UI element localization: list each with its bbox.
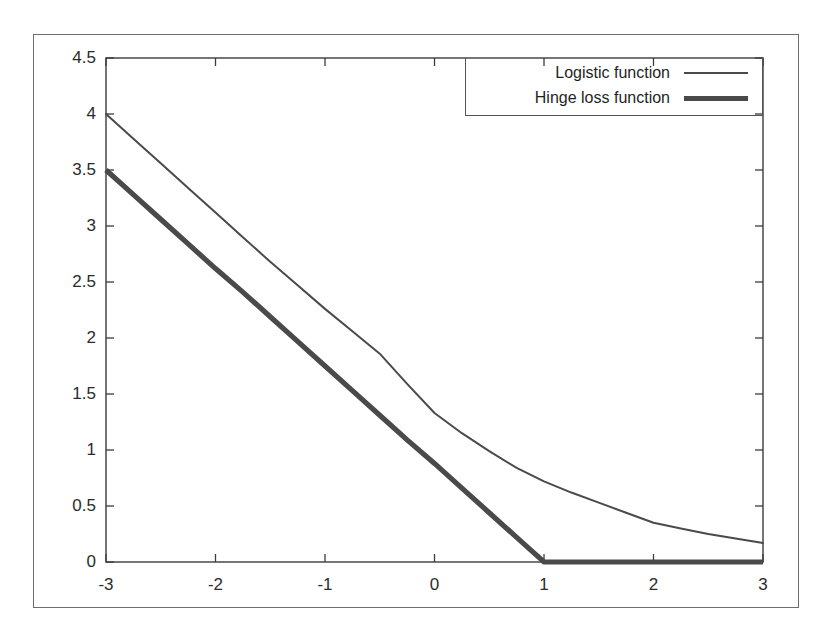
legend-label-logistic-function: Logistic function <box>555 64 684 82</box>
y-tick-label-3.5: 3.5 <box>44 160 96 180</box>
x-tick-label--2: -2 <box>208 575 223 595</box>
y-tick-label-4.5: 4.5 <box>44 48 96 68</box>
series-line-logistic-function <box>106 114 763 543</box>
y-tick-label-3: 3 <box>44 216 96 236</box>
x-tick-label--3: -3 <box>98 575 113 595</box>
x-tick-label--1: -1 <box>317 575 332 595</box>
plot-canvas <box>34 35 798 607</box>
line-thick-icon <box>684 96 748 101</box>
y-tick-label-1.5: 1.5 <box>44 384 96 404</box>
legend-entry-hinge-loss-function: Hinge loss function <box>466 87 748 109</box>
x-tick-label-3: 3 <box>758 575 767 595</box>
legend: Logistic function Hinge loss function <box>465 58 763 116</box>
x-tick-label-2: 2 <box>649 575 658 595</box>
plot-border <box>106 58 763 562</box>
y-tick-label-0: 0 <box>44 552 96 572</box>
legend-label-hinge-loss-function: Hinge loss function <box>535 89 684 107</box>
y-axis-ticks-right <box>755 58 763 562</box>
y-tick-label-0.5: 0.5 <box>44 496 96 516</box>
line-thin-icon <box>684 72 748 74</box>
series-line-hinge-loss-function <box>106 170 763 562</box>
y-tick-label-2: 2 <box>44 328 96 348</box>
y-tick-label-4: 4 <box>44 104 96 124</box>
x-tick-label-1: 1 <box>539 575 548 595</box>
y-axis-ticks <box>106 58 114 562</box>
x-tick-label-0: 0 <box>430 575 439 595</box>
y-tick-label-1: 1 <box>44 440 96 460</box>
y-tick-label-2.5: 2.5 <box>44 272 96 292</box>
figure-page: 4.5 4 3.5 3 2.5 2 1.5 1 0.5 0 -3 -2 -1 0… <box>0 0 829 631</box>
caption-remnant-text <box>0 0 829 16</box>
legend-entry-logistic-function: Logistic function <box>466 62 748 84</box>
figure-frame: 4.5 4 3.5 3 2.5 2 1.5 1 0.5 0 -3 -2 -1 0… <box>33 34 799 608</box>
